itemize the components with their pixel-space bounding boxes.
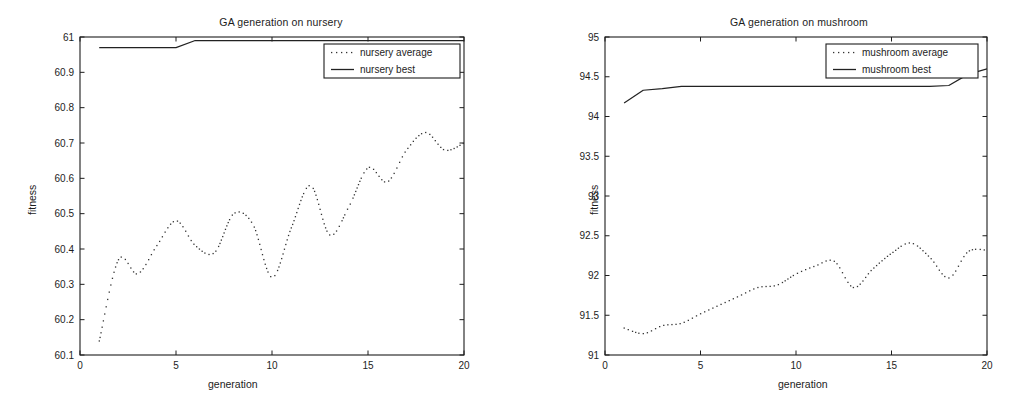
y-tick-label: 60.2 [55,314,75,325]
y-tick-label: 94 [588,111,600,122]
legend-entry-label: nursery average [360,47,433,58]
legend-entry-label: mushroom best [862,64,931,75]
figure-nursery: GA generation on nursery 60.160.260.360.… [0,0,514,414]
y-tick-label: 60.1 [55,350,75,361]
legend-mushroom[interactable]: mushroom averagemushroom best [826,44,978,78]
y-tick-label: 60.3 [55,279,75,290]
y-tick-label: 60.4 [55,244,75,255]
y-tick-label: 95 [588,32,600,43]
y-tick-label: 60.6 [55,173,75,184]
x-tick-label: 15 [362,360,374,371]
x-tick-label: 10 [266,360,278,371]
y-tick-label: 92.5 [580,230,600,241]
plot-nursery: 60.160.260.360.460.560.660.760.860.96105… [0,0,514,414]
figure-mushroom: GA generation on mushroom 9191.59292.593… [514,0,1028,414]
x-tick-label: 20 [458,360,470,371]
figure-row: GA generation on nursery 60.160.260.360.… [0,0,1028,414]
y-tick-label: 60.9 [55,67,75,78]
y-tick-label: 60.5 [55,208,75,219]
legend-nursery[interactable]: nursery averagenursery best [324,44,460,78]
y-tick-label: 92 [588,270,600,281]
x-tick-label: 0 [602,360,608,371]
series-nursery-average [99,132,464,342]
x-tick-label: 15 [886,360,898,371]
x-axis-label-nursery: generation [208,378,258,390]
y-axis-label-mushroom: fitness [588,185,600,215]
x-tick-label: 0 [77,360,83,371]
x-tick-label: 20 [981,360,993,371]
y-tick-label: 61 [63,32,75,43]
y-tick-label: 60.7 [55,138,75,149]
x-tick-label: 10 [790,360,802,371]
x-tick-label: 5 [698,360,704,371]
y-tick-label: 91 [588,350,600,361]
y-tick-label: 60.8 [55,102,75,113]
x-axis-label-mushroom: generation [778,378,828,390]
legend-entry-label: mushroom average [862,47,949,58]
legend-entry-label: nursery best [360,64,415,75]
y-tick-label: 93.5 [580,151,600,162]
series-mushroom-average [624,242,985,334]
y-tick-label: 91.5 [580,310,600,321]
x-tick-label: 5 [173,360,179,371]
y-axis-label-nursery: fitness [26,185,38,215]
y-tick-label: 94.5 [580,71,600,82]
